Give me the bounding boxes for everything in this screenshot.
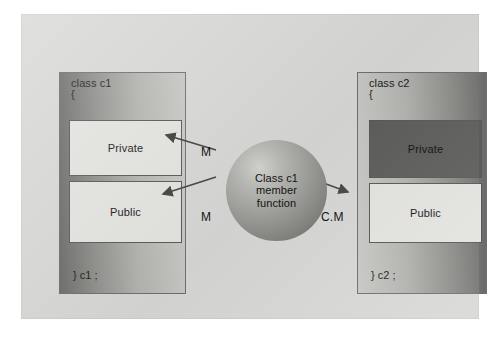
center-node-label: Class c1 member function <box>255 172 298 210</box>
class-c2-private-section: Private <box>369 120 482 178</box>
class-c2-title: class c2 <box>369 78 410 89</box>
scanned-page-background: class c1 { Private Public } c1 ; class c… <box>21 14 479 319</box>
class-c1-private-section: Private <box>69 120 182 176</box>
class-c2-open-brace: { <box>369 89 373 100</box>
class-c1-open-brace: { <box>71 89 75 100</box>
class-c1-public-label: Public <box>110 206 141 218</box>
diagram-canvas: class c1 { Private Public } c1 ; class c… <box>0 0 501 339</box>
arrow-label-cm: C.M <box>321 210 344 224</box>
class-c1-public-section: Public <box>69 181 182 243</box>
class-c2-public-label: Public <box>410 207 441 219</box>
class-c2-close-brace: } c2 ; <box>371 269 395 281</box>
class-box-c2: class c2 { Private Public } c2 ; <box>357 72 487 294</box>
arrow-label-m-top: M <box>201 145 211 159</box>
class-c1-title: class c1 <box>71 78 112 89</box>
class-c1-private-label: Private <box>108 142 144 154</box>
class-c2-public-section: Public <box>369 183 482 243</box>
arrow-label-m-bottom: M <box>201 210 211 224</box>
class-box-c1: class c1 { Private Public } c1 ; <box>59 72 186 294</box>
class-c2-private-label: Private <box>408 143 444 155</box>
class-c1-close-brace: } c1 ; <box>73 269 97 281</box>
center-node-sphere: Class c1 member function <box>226 140 327 241</box>
